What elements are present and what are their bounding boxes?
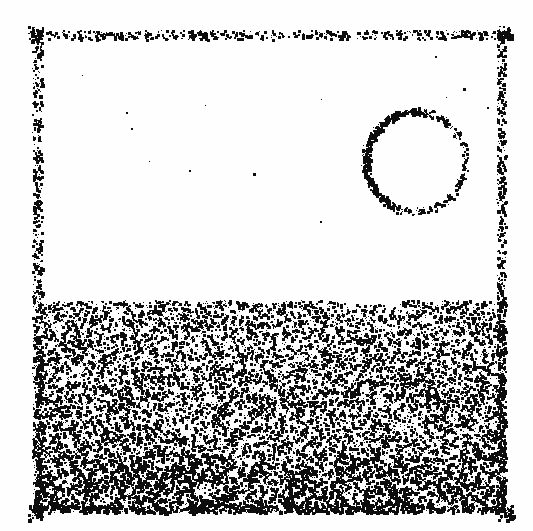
particle-stipple-canvas: [0, 0, 533, 531]
particle-simulation-figure: Monochrome stippled snapshot of a two-di…: [0, 0, 533, 531]
